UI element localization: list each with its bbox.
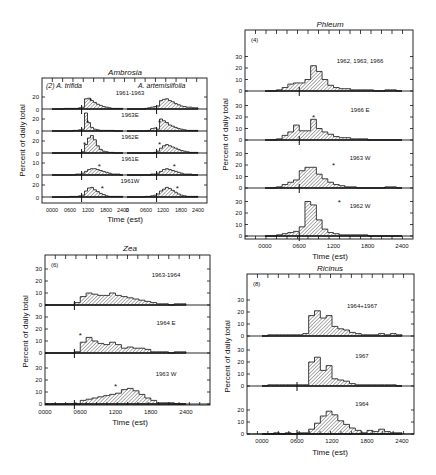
y-tick-label: 0 (241, 431, 245, 437)
y-tick-label: 20 (237, 359, 244, 365)
histogram-bars (262, 357, 402, 386)
row-label: 1964 (355, 401, 369, 407)
y-tick-label: 0 (241, 333, 245, 339)
y-tick-label: 10 (237, 419, 244, 425)
row-label: 1967 (355, 353, 369, 359)
x-tick-label: 0000 (255, 438, 269, 444)
histogram-bars (262, 311, 402, 336)
x-tick-label: 0600 (290, 438, 304, 444)
plot-frame (247, 274, 414, 434)
x-tick-label: 2400 (395, 438, 409, 444)
panel-label: (8) (253, 281, 260, 287)
histogram-bars (262, 411, 402, 434)
row-label: 1964+1967 (347, 303, 378, 309)
ricinus-chart: (8)1964+19670102030196701020301964010200… (0, 0, 436, 475)
x-tick-label: 1200 (325, 438, 339, 444)
y-tick-label: 0 (241, 383, 245, 389)
y-tick-label: 20 (237, 407, 244, 413)
y-tick-label: 10 (237, 321, 244, 327)
y-tick-label: 10 (237, 371, 244, 377)
y-tick-label: 20 (237, 309, 244, 315)
x-tick-label: 1800 (360, 438, 374, 444)
y-tick-label: 30 (237, 347, 244, 353)
y-tick-label: 30 (237, 297, 244, 303)
